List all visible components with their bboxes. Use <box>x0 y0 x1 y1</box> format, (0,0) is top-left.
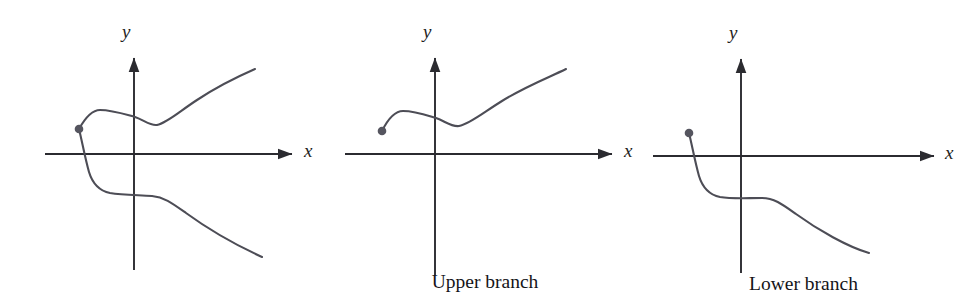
y-axis-label: y <box>423 22 431 41</box>
upper-branch-caption: Upper branch <box>320 272 650 292</box>
endpoint-dot-marker <box>378 127 387 136</box>
y-axis-label: y <box>122 22 130 41</box>
full-curve-plot <box>0 0 330 308</box>
x-axis-label: x <box>945 143 953 162</box>
upper-branch-curve <box>382 69 566 131</box>
x-axis-label: x <box>304 141 312 160</box>
figure-root: y x y x <box>0 0 967 308</box>
lower-branch-curve <box>689 133 869 253</box>
full-curve-panel: y x <box>0 0 330 308</box>
y-axis-label: y <box>729 23 737 42</box>
lower-branch-plot <box>640 0 967 308</box>
endpoint-dot-marker <box>75 125 84 134</box>
upper-branch-curve <box>79 69 255 129</box>
x-axis-label: x <box>624 141 632 160</box>
lower-branch-curve <box>79 129 262 257</box>
lower-branch-panel: y x <box>640 0 967 308</box>
upper-branch-panel: y x <box>320 0 650 308</box>
endpoint-dot-marker <box>685 129 694 138</box>
upper-branch-plot <box>320 0 650 308</box>
lower-branch-caption: Lower branch <box>640 274 967 294</box>
